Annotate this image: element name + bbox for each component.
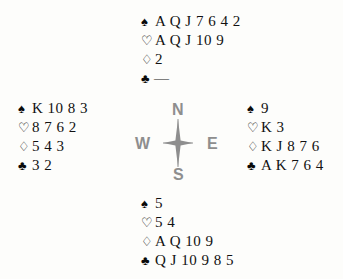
club-icon: ♣ — [18, 156, 31, 175]
hand-south-spades-row: ♠ 5 — [141, 194, 234, 213]
hand-east-clubs: A K 7 6 4 — [261, 156, 324, 175]
diamond-icon: ♢ — [141, 50, 154, 69]
hand-south: ♠ 5 ♡ 5 4 ♢ A Q 10 9 ♣ Q J 10 9 8 5 — [141, 194, 234, 270]
diamond-icon: ♢ — [141, 232, 154, 251]
hand-east-hearts-row: ♡ K 3 — [247, 118, 324, 137]
hand-west-diamonds: 5 4 3 — [32, 137, 65, 156]
hand-north-spades-row: ♠ A Q J 7 6 4 2 — [141, 12, 241, 31]
hand-east-diamonds: K J 8 7 6 — [261, 137, 320, 156]
heart-icon: ♡ — [141, 31, 154, 50]
hand-east-spades-row: ♠ 9 — [247, 99, 324, 118]
diamond-icon: ♢ — [247, 137, 260, 156]
hand-east-clubs-row: ♣ A K 7 6 4 — [247, 156, 324, 175]
hand-east-hearts: K 3 — [261, 118, 285, 137]
hand-north-hearts-row: ♡ A Q J 10 9 — [141, 31, 241, 50]
compass-label-south: S — [173, 167, 184, 183]
hand-north-clubs: — — [154, 69, 169, 88]
hand-north: ♠ A Q J 7 6 4 2 ♡ A Q J 10 9 ♢ 2 ♣ — — [141, 12, 241, 88]
heart-icon: ♡ — [141, 213, 154, 232]
spade-icon: ♠ — [141, 12, 154, 31]
compass-label-north: N — [172, 102, 184, 118]
compass-star-icon — [163, 119, 193, 167]
hand-south-clubs: Q J 10 9 8 5 — [155, 251, 234, 270]
hand-south-clubs-row: ♣ Q J 10 9 8 5 — [141, 251, 234, 270]
hand-south-hearts-row: ♡ 5 4 — [141, 213, 234, 232]
hand-west-hearts: 8 7 6 2 — [32, 118, 77, 137]
hand-north-hearts: A Q J 10 9 — [155, 31, 224, 50]
hand-east-diamonds-row: ♢ K J 8 7 6 — [247, 137, 324, 156]
compass-label-west: W — [135, 136, 150, 152]
hand-west: ♠ K 10 8 3 ♡ 8 7 6 2 ♢ 5 4 3 ♣ 3 2 — [18, 99, 88, 175]
hand-west-clubs-row: ♣ 3 2 — [18, 156, 88, 175]
hand-south-spades: 5 — [155, 194, 163, 213]
spade-icon: ♠ — [18, 99, 31, 118]
hand-west-spades: K 10 8 3 — [32, 99, 88, 118]
heart-icon: ♡ — [247, 118, 260, 137]
heart-icon: ♡ — [18, 118, 31, 137]
diamond-icon: ♢ — [18, 137, 31, 156]
hand-south-diamonds-row: ♢ A Q 10 9 — [141, 232, 234, 251]
hand-south-diamonds: A Q 10 9 — [155, 232, 214, 251]
club-icon: ♣ — [247, 156, 260, 175]
hand-west-clubs: 3 2 — [32, 156, 52, 175]
bridge-deal-diagram: ♠ A Q J 7 6 4 2 ♡ A Q J 10 9 ♢ 2 ♣ — ♠ K… — [0, 0, 343, 279]
spade-icon: ♠ — [141, 194, 154, 213]
hand-north-clubs-row: ♣ — — [141, 69, 241, 88]
compass-label-east: E — [207, 136, 218, 152]
hand-north-diamonds-row: ♢ 2 — [141, 50, 241, 69]
hand-north-spades: A Q J 7 6 4 2 — [155, 12, 241, 31]
compass-rose: N W E S — [132, 99, 224, 187]
hand-east: ♠ 9 ♡ K 3 ♢ K J 8 7 6 ♣ A K 7 6 4 — [247, 99, 324, 175]
hand-east-spades: 9 — [261, 99, 269, 118]
club-icon: ♣ — [141, 251, 154, 270]
hand-north-diamonds: 2 — [155, 50, 163, 69]
spade-icon: ♠ — [247, 99, 260, 118]
club-icon: ♣ — [141, 69, 154, 88]
hand-west-spades-row: ♠ K 10 8 3 — [18, 99, 88, 118]
hand-south-hearts: 5 4 — [155, 213, 175, 232]
hand-west-diamonds-row: ♢ 5 4 3 — [18, 137, 88, 156]
hand-west-hearts-row: ♡ 8 7 6 2 — [18, 118, 88, 137]
